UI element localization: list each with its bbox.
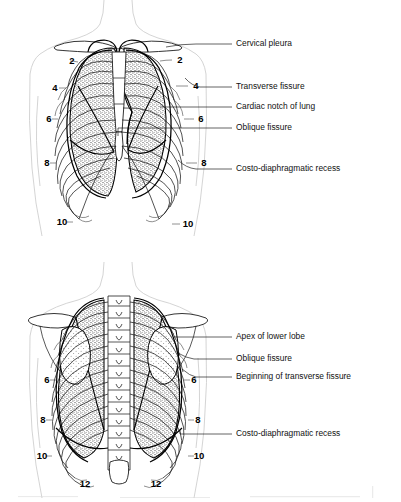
rib-number: 10 <box>57 216 68 227</box>
rib-number: 10 <box>37 450 48 461</box>
label-beginning-transverse-fissure: Beginning of transverse fissure <box>236 371 351 381</box>
anatomy-figure: 2 4 6 8 10 2 4 6 8 10 Cervical pleura Tr… <box>0 0 401 502</box>
label-apex-of-lower-lobe: Apex of lower lobe <box>236 331 305 341</box>
rib-number: 8 <box>201 157 206 168</box>
rib-number: 10 <box>183 218 194 229</box>
label-cardiac-notch-of-lung: Cardiac notch of lung <box>236 101 315 111</box>
rib-number: 8 <box>40 414 45 425</box>
rib-number: 6 <box>198 113 203 124</box>
rib-number: 10 <box>194 450 205 461</box>
rib-number: 6 <box>191 374 196 385</box>
rib-number: 4 <box>52 82 58 93</box>
rib-number: 6 <box>46 113 51 124</box>
label-transverse-fissure: Transverse fissure <box>236 81 305 91</box>
label-costo-diaphragmatic-recess: Costo-diaphragmatic recess <box>236 163 340 173</box>
vertebral-column-posterior <box>108 296 130 484</box>
rib-number: 8 <box>44 157 49 168</box>
rib-number: 12 <box>151 478 162 489</box>
label-costo-diaphragmatic-recess-post: Costo-diaphragmatic recess <box>236 428 340 438</box>
figure-canvas: 2 4 6 8 10 2 4 6 8 10 Cervical pleura Tr… <box>0 0 401 502</box>
label-cervical-pleura: Cervical pleura <box>236 38 292 48</box>
rib-number: 8 <box>195 414 200 425</box>
rib-number: 6 <box>44 374 49 385</box>
rib-number: 2 <box>177 54 182 65</box>
rib-number: 2 <box>69 55 74 66</box>
label-oblique-fissure-posterior: Oblique fissure <box>236 353 292 363</box>
rib-number: 12 <box>80 478 91 489</box>
label-oblique-fissure: Oblique fissure <box>236 122 292 132</box>
